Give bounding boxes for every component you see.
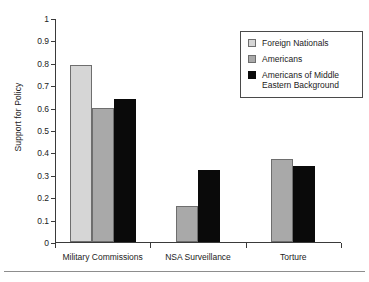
x-axis-tick-mark [341,243,342,248]
medium-gray-swatch-icon [248,55,256,63]
x-axis-category-label: NSA Surveillance [165,252,231,262]
bar [271,159,293,242]
bar-chart-figure: Support for Policy 00.10.20.30.40.50.60.… [0,0,369,282]
y-axis-tick-label: 0.9 [37,36,49,46]
y-axis-tick-mark [51,41,55,42]
x-axis-tick-mark [246,243,247,248]
x-axis-category-label: Torture [280,252,306,262]
y-axis-tick-mark [51,64,55,65]
y-axis-tick-mark [51,176,55,177]
bar [114,99,136,242]
y-axis-tick-mark [51,86,55,87]
y-axis-tick-label: 0.5 [37,126,49,136]
legend-item-label: Foreign Nationals [262,38,329,48]
y-axis-tick-label: 0.7 [37,81,49,91]
legend: Foreign Nationals Americans Americans of… [240,31,363,98]
y-axis-tick-label: 0.2 [37,193,49,203]
legend-item: Americans of Middle Eastern Background [248,70,355,90]
y-axis-tick-label: 0.3 [37,171,49,181]
legend-item: Americans [248,54,355,64]
black-swatch-icon [248,71,256,79]
bar [293,166,315,242]
x-axis-category-label: Military Commissions [63,252,143,262]
bar [92,108,114,242]
y-axis-tick-mark [51,153,55,154]
y-axis-title: Support for Policy [13,47,23,187]
y-axis-line [55,19,56,243]
y-axis-tick-mark [51,221,55,222]
y-axis-tick-label: 0.6 [37,104,49,114]
legend-item-label: Americans of Middle Eastern Background [262,70,355,90]
y-axis-tick-mark [51,19,55,20]
x-axis-tick-mark [55,243,56,248]
bar [70,65,92,242]
legend-item: Foreign Nationals [248,38,355,48]
x-axis-line [55,242,341,243]
legend-item-label: Americans [262,54,302,64]
y-axis-tick-label: 0 [44,238,49,248]
page-separator-rule [4,271,365,272]
y-axis-tick-mark [51,109,55,110]
y-axis-tick-label: 1 [44,14,49,24]
y-axis-tick-label: 0.1 [37,216,49,226]
y-axis-tick-label: 0.4 [37,148,49,158]
y-axis-tick-label: 0.8 [37,59,49,69]
y-axis-tick-mark [51,198,55,199]
light-gray-swatch-icon [248,39,256,47]
bar [176,206,198,242]
x-axis-tick-mark [150,243,151,248]
bar [198,170,220,242]
y-axis-tick-mark [51,131,55,132]
